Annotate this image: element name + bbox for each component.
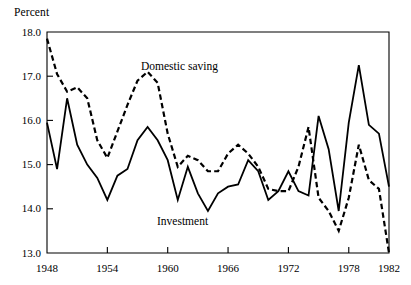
x-axis-tick-label: 1966 bbox=[205, 258, 251, 276]
y-axis-tick-label: 18.0 bbox=[8, 27, 41, 38]
y-axis-tick-text: 14.0 bbox=[8, 203, 41, 214]
y-axis-tick-label: 14.0 bbox=[8, 203, 41, 214]
x-axis-tick-text: 1948 bbox=[36, 262, 58, 274]
series-line-investment bbox=[47, 65, 389, 211]
x-axis-tick-label: 1978 bbox=[326, 258, 372, 276]
x-axis-tick-label: 1954 bbox=[84, 258, 130, 276]
y-axis-tick-text: 16.0 bbox=[8, 115, 41, 126]
x-axis-tick-text: 1960 bbox=[157, 262, 179, 274]
series-label-domestic-saving: Domestic saving bbox=[141, 60, 218, 73]
x-axis-tick-text: 1954 bbox=[96, 262, 118, 274]
x-axis-tick-label: 1948 bbox=[24, 258, 70, 276]
x-axis-tick-label: 1982 bbox=[366, 258, 411, 276]
y-axis-tick-text: 15.0 bbox=[8, 159, 41, 170]
x-axis-tick-text: 1982 bbox=[378, 262, 400, 274]
x-axis-tick-text: 1972 bbox=[277, 262, 299, 274]
y-axis-tick-label: 13.0 bbox=[8, 248, 41, 259]
x-axis-tick-label: 1972 bbox=[265, 258, 311, 276]
y-axis-tick-label: 16.0 bbox=[8, 115, 41, 126]
series-label-investment: Investment bbox=[157, 215, 208, 228]
series-line-domestic-saving bbox=[47, 39, 389, 253]
plot-frame bbox=[47, 32, 389, 253]
y-axis-tick-label: 17.0 bbox=[8, 71, 41, 82]
x-axis-tick-text: 1978 bbox=[338, 262, 360, 274]
y-axis-tick-text: 17.0 bbox=[8, 71, 41, 82]
savings-investment-line-chart: Percent 13.014.015.016.017.018.0 1948195… bbox=[0, 0, 411, 285]
x-axis-tick-label: 1960 bbox=[145, 258, 191, 276]
y-axis-tick-text: 13.0 bbox=[8, 248, 41, 259]
y-axis-tick-text: 18.0 bbox=[8, 27, 41, 38]
plot-canvas bbox=[0, 0, 411, 285]
x-axis-tick-text: 1966 bbox=[217, 262, 239, 274]
y-axis-tick-label: 15.0 bbox=[8, 159, 41, 170]
